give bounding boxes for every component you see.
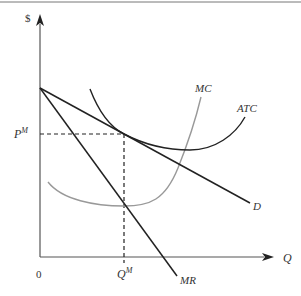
- price-label: PM: [13, 126, 29, 141]
- monopoly-diagram: $ Q 0 PM QM MC ATC D MR: [0, 0, 301, 296]
- mc-label: MC: [194, 82, 212, 94]
- atc-label: ATC: [236, 102, 257, 114]
- axes: [36, 14, 274, 261]
- origin-label: 0: [36, 268, 42, 280]
- demand-curve: [40, 88, 250, 203]
- mr-curve: [40, 88, 177, 276]
- x-axis-label: Q: [283, 251, 292, 265]
- y-axis-label: $: [25, 12, 31, 24]
- quantity-label-sup: M: [125, 266, 134, 275]
- mr-label: MR: [179, 274, 196, 286]
- price-label-sup: M: [20, 126, 29, 135]
- quantity-label-base: Q: [117, 267, 126, 281]
- demand-label: D: [252, 200, 261, 212]
- atc-curve: [90, 89, 245, 150]
- quantity-label: QM: [117, 266, 134, 281]
